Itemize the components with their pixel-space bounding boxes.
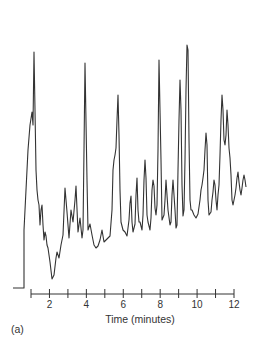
panel-label: (a) (11, 323, 24, 335)
chromatogram-trace (13, 45, 246, 288)
x-tick-label: 4 (84, 299, 90, 310)
x-axis-label: Time (minutes) (105, 313, 175, 325)
x-tick-label: 12 (228, 299, 239, 310)
x-axis (31, 289, 234, 298)
x-tick-label: 2 (47, 299, 53, 310)
x-tick-label: 10 (192, 299, 203, 310)
chromatogram-plot (0, 0, 256, 349)
x-tick-label: 8 (157, 299, 163, 310)
x-tick-label: 6 (120, 299, 126, 310)
